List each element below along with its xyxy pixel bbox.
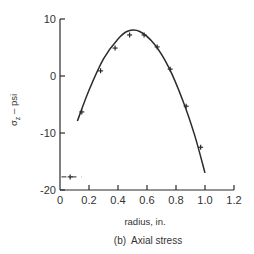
x-tick-label: 0.6: [139, 194, 154, 206]
y-tick-label: -10: [40, 127, 56, 139]
y-tick-label: 0: [50, 70, 56, 82]
x-axis-label: radius, in.: [124, 216, 165, 227]
data-point-marker: [68, 174, 73, 179]
axial-stress-chart: -20-1001000.20.40.60.81.01.2 radius, in.…: [0, 0, 254, 254]
figure-caption: (b) Axial stress: [114, 235, 182, 246]
x-tick-label: 1.0: [197, 194, 212, 206]
theory-line: [77, 30, 205, 173]
y-tick-label: 10: [44, 13, 56, 25]
x-tick-label: 1.2: [226, 194, 241, 206]
x-tick-label: 0.4: [110, 194, 125, 206]
x-tick-label: 0: [57, 194, 63, 206]
y-tick-label: -20: [40, 184, 56, 196]
y-axis-label: σz – psi: [8, 94, 21, 126]
theory-curve: [77, 30, 205, 173]
data-point-marker: [113, 46, 118, 51]
data-points: [68, 32, 204, 179]
data-point-marker: [127, 32, 132, 37]
x-tick-label: 0.8: [168, 194, 183, 206]
x-tick-label: 0.2: [81, 194, 96, 206]
